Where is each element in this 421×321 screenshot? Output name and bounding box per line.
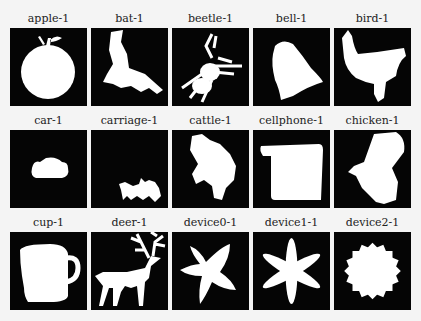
tile-label: device2-1: [334, 216, 411, 229]
car-silhouette: [10, 130, 87, 208]
device1-silhouette: [253, 232, 330, 310]
cup-silhouette: [10, 232, 87, 310]
bird-silhouette: [334, 28, 411, 106]
cattle-silhouette: [172, 130, 249, 208]
tile-label: bird-1: [334, 12, 411, 25]
tile-label: cellphone-1: [253, 114, 330, 127]
tile-label: chicken-1: [334, 114, 411, 127]
tile-label: bell-1: [253, 12, 330, 25]
tile-label: beetle-1: [172, 12, 249, 25]
tile-label: device0-1: [172, 216, 249, 229]
deer-silhouette: [91, 232, 168, 310]
cellphone-silhouette: [253, 130, 330, 208]
bat-silhouette: [91, 28, 168, 106]
tile-label: device1-1: [253, 216, 330, 229]
tile-label: bat-1: [91, 12, 168, 25]
device2-silhouette: [334, 232, 411, 310]
carriage-silhouette: [91, 130, 168, 208]
bell-silhouette: [253, 28, 330, 106]
tile-label: car-1: [10, 114, 87, 127]
beetle-silhouette: [172, 28, 249, 106]
tile-label: carriage-1: [91, 114, 168, 127]
device0-silhouette: [172, 232, 249, 310]
tile-label: cattle-1: [172, 114, 249, 127]
tile-label: cup-1: [10, 216, 87, 229]
tile-label: apple-1: [10, 12, 87, 25]
chicken-silhouette: [334, 130, 411, 208]
tile-label: deer-1: [91, 216, 168, 229]
apple-silhouette: [10, 28, 87, 106]
